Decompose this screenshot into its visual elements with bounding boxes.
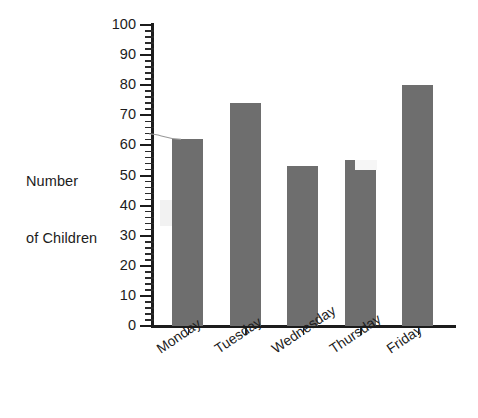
y-tick-minor: [145, 271, 154, 273]
y-tick-minor: [145, 277, 154, 279]
y-tick-minor: [145, 90, 154, 92]
y-tick-label: 50: [96, 168, 136, 183]
y-tick-major: [140, 325, 154, 327]
y-tick-label: 80: [96, 77, 136, 92]
y-tick-minor: [145, 199, 154, 201]
y-tick-label: 60: [96, 137, 136, 152]
y-tick-minor: [145, 301, 154, 303]
y-tick-minor: [145, 229, 154, 231]
y-tick-minor: [145, 121, 154, 123]
y-tick-minor: [145, 181, 154, 183]
y-tick-major: [140, 235, 154, 237]
bar: [287, 166, 318, 326]
y-tick-minor: [145, 30, 154, 32]
y-tick-minor: [145, 72, 154, 74]
bar: [172, 139, 203, 326]
y-tick-minor: [145, 108, 154, 110]
y-tick-minor: [145, 193, 154, 195]
y-tick-minor: [145, 157, 154, 159]
y-tick-minor: [145, 163, 154, 165]
bar: [402, 85, 433, 326]
y-tick-minor: [145, 289, 154, 291]
y-tick-minor: [145, 66, 154, 68]
y-tick-major: [140, 295, 154, 297]
y-tick-minor: [145, 259, 154, 261]
y-tick-label: 20: [96, 258, 136, 273]
y-tick-minor: [145, 96, 154, 98]
y-tick-major: [140, 24, 154, 26]
y-tick-minor: [145, 169, 154, 171]
y-tick-minor: [145, 247, 154, 249]
y-tick-label: 30: [96, 228, 136, 243]
y-tick-major: [140, 205, 154, 207]
y-tick-label: 40: [96, 198, 136, 213]
y-tick-major: [140, 175, 154, 177]
bar-chart: Number of Children 010203040506070809010…: [0, 0, 478, 418]
y-tick-label: 90: [96, 47, 136, 62]
y-tick-minor: [145, 211, 154, 213]
y-tick-minor: [145, 283, 154, 285]
y-tick-label: 70: [96, 107, 136, 122]
y-tick-minor: [145, 48, 154, 50]
y-tick-minor: [145, 151, 154, 153]
y-tick-minor: [145, 307, 154, 309]
bar: [230, 103, 261, 326]
y-tick-minor: [145, 253, 154, 255]
y-tick-minor: [145, 78, 154, 80]
y-tick-minor: [145, 127, 154, 129]
y-tick-minor: [145, 42, 154, 44]
y-tick-minor: [145, 241, 154, 243]
y-tick-major: [140, 54, 154, 56]
y-tick-minor: [145, 217, 154, 219]
y-tick-minor: [145, 313, 154, 315]
y-tick-minor: [145, 102, 154, 104]
y-tick-major: [140, 265, 154, 267]
y-tick-minor: [145, 36, 154, 38]
y-tick-label: 100: [96, 17, 136, 32]
y-tick-major: [140, 114, 154, 116]
y-tick-minor: [145, 319, 154, 321]
y-tick-label: 10: [96, 288, 136, 303]
y-tick-minor: [145, 60, 154, 62]
scan-artifact-smudge-a: [160, 200, 172, 226]
y-tick-minor: [145, 133, 154, 135]
y-tick-major: [140, 144, 154, 146]
y-tick-minor: [145, 223, 154, 225]
bar: [345, 160, 376, 326]
y-tick-major: [140, 84, 154, 86]
y-tick-minor: [145, 187, 154, 189]
y-tick-label: 0: [96, 318, 136, 333]
y-tick-minor: [145, 139, 154, 141]
